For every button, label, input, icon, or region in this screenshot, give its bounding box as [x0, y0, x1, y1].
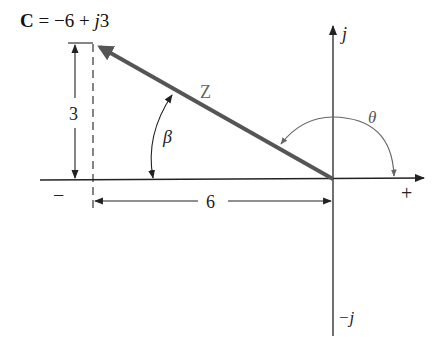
- theta-label: θ: [368, 108, 376, 127]
- j-axis-label: j: [340, 24, 347, 44]
- neg-j-axis-label: −j: [338, 308, 354, 327]
- complex-plane-diagram: C = −6 + j3 Z β θ j −j + − 3 6: [0, 0, 432, 363]
- theta-angle-arc: [281, 117, 394, 176]
- plus-label: +: [401, 182, 412, 204]
- height-label: 3: [69, 104, 78, 124]
- real-axis: [40, 178, 424, 180]
- width-label: 6: [206, 192, 215, 212]
- equation-imag: 3: [100, 10, 110, 31]
- phasor-vector-z: [100, 47, 333, 179]
- minus-label: −: [53, 184, 64, 206]
- phasor-equation: C = −6 + j3: [20, 10, 109, 31]
- vector-label-z: Z: [200, 82, 211, 102]
- equation-expression: = −6 +: [34, 10, 95, 31]
- beta-label: β: [162, 127, 172, 147]
- phasor-symbol: C: [20, 10, 34, 31]
